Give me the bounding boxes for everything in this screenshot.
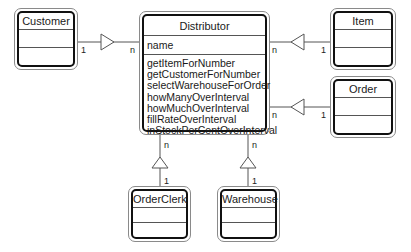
class-order[interactable]: Order bbox=[330, 76, 396, 138]
class-attributes-compartment bbox=[335, 98, 391, 116]
class-attributes-compartment bbox=[335, 30, 391, 48]
class-name: Warehouse bbox=[222, 191, 275, 208]
multiplicity-item-many: n bbox=[272, 45, 277, 55]
class-item[interactable]: Item bbox=[330, 8, 396, 70]
operation: selectWarehouseForOrder bbox=[147, 80, 262, 91]
operation: inStockPerCentOverInterval bbox=[147, 125, 262, 136]
class-orderclerk[interactable]: OrderClerk bbox=[128, 186, 191, 242]
multiplicity-orderclerk-one: 1 bbox=[164, 176, 169, 186]
class-operations-compartment bbox=[19, 48, 73, 65]
aggregation-triangle-icon bbox=[101, 34, 114, 50]
multiplicity-warehouse-one: 1 bbox=[252, 176, 257, 186]
class-order-body: Order bbox=[333, 79, 393, 135]
class-customer[interactable]: Customer bbox=[14, 8, 78, 70]
multiplicity-order-many: n bbox=[272, 110, 277, 120]
class-name: Order bbox=[335, 81, 391, 98]
aggregation-triangle-icon bbox=[152, 157, 168, 168]
class-name: OrderClerk bbox=[133, 191, 186, 208]
multiplicity-item-one: 1 bbox=[321, 45, 326, 55]
multiplicity-order-one: 1 bbox=[321, 110, 326, 120]
class-item-body: Item bbox=[333, 11, 393, 67]
multiplicity-orderclerk-many: n bbox=[164, 140, 169, 150]
class-operations-compartment bbox=[133, 223, 186, 237]
class-name: Customer bbox=[19, 13, 73, 30]
multiplicity-customer-one: 1 bbox=[81, 45, 86, 55]
aggregation-triangle-icon bbox=[291, 99, 304, 115]
class-operations-compartment bbox=[335, 116, 391, 133]
aggregation-triangle-icon bbox=[291, 34, 304, 50]
attribute: name bbox=[147, 36, 262, 54]
class-attributes-compartment bbox=[133, 208, 186, 223]
class-distributor[interactable]: Distributor name getItemForNumber getCus… bbox=[139, 11, 270, 135]
class-attributes-compartment bbox=[222, 208, 275, 223]
class-operations-compartment: getItemForNumber getCustomerForNumber se… bbox=[144, 55, 265, 136]
multiplicity-customer-many: n bbox=[130, 45, 135, 55]
multiplicity-warehouse-many: n bbox=[252, 140, 257, 150]
class-warehouse-body: Warehouse bbox=[220, 189, 277, 239]
class-distributor-body: Distributor name getItemForNumber getCus… bbox=[142, 14, 267, 132]
class-name: Distributor bbox=[144, 16, 265, 36]
aggregation-triangle-icon bbox=[240, 157, 256, 168]
class-warehouse[interactable]: Warehouse bbox=[217, 186, 280, 242]
class-attributes-compartment bbox=[19, 30, 73, 48]
class-orderclerk-body: OrderClerk bbox=[131, 189, 188, 239]
class-name: Item bbox=[335, 13, 391, 30]
class-customer-body: Customer bbox=[17, 11, 75, 67]
class-attributes-compartment: name bbox=[144, 36, 265, 55]
class-operations-compartment bbox=[335, 48, 391, 65]
class-operations-compartment bbox=[222, 223, 275, 237]
